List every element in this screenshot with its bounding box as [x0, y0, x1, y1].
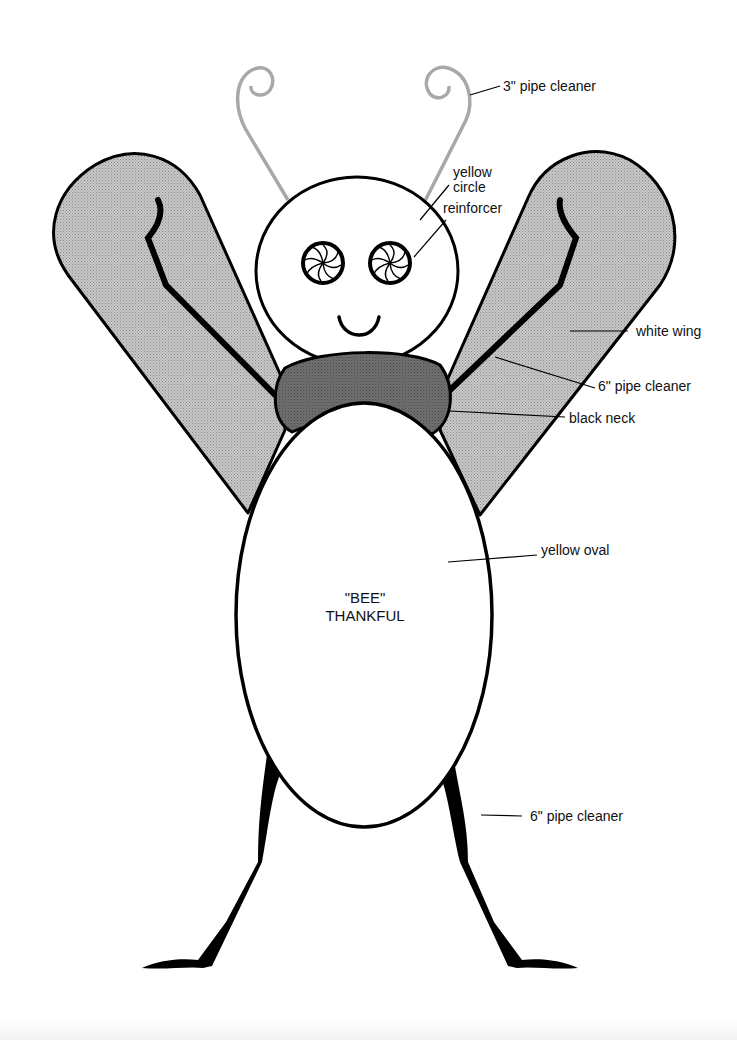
label-antenna: 3" pipe cleaner	[503, 78, 596, 94]
label-body: yellow oval	[541, 542, 609, 558]
left-wing	[54, 154, 285, 513]
label-wing-vein: 6" pipe cleaner	[598, 378, 691, 394]
scan-edge	[0, 1020, 737, 1040]
center-text-line2: THANKFUL	[295, 607, 435, 625]
label-wing: white wing	[636, 323, 701, 339]
label-eye-line3: reinforcer	[443, 200, 502, 216]
label-eye-line1: yellow	[453, 164, 492, 180]
left-eye-reinforcer	[303, 243, 343, 283]
label-legs: 6" pipe cleaner	[530, 808, 623, 824]
right-leg	[438, 748, 578, 969]
label-neck: black neck	[569, 410, 635, 426]
head	[256, 177, 458, 365]
bee-illustration	[0, 0, 737, 1040]
center-text-line1: "BEE"	[295, 589, 435, 607]
label-eye-line2: circle	[453, 179, 486, 195]
left-leg	[142, 748, 282, 969]
left-antenna	[238, 68, 288, 200]
bee-diagram: 3" pipe cleaner yellow circle reinforcer…	[0, 0, 737, 1040]
right-eye-reinforcer	[370, 243, 410, 283]
